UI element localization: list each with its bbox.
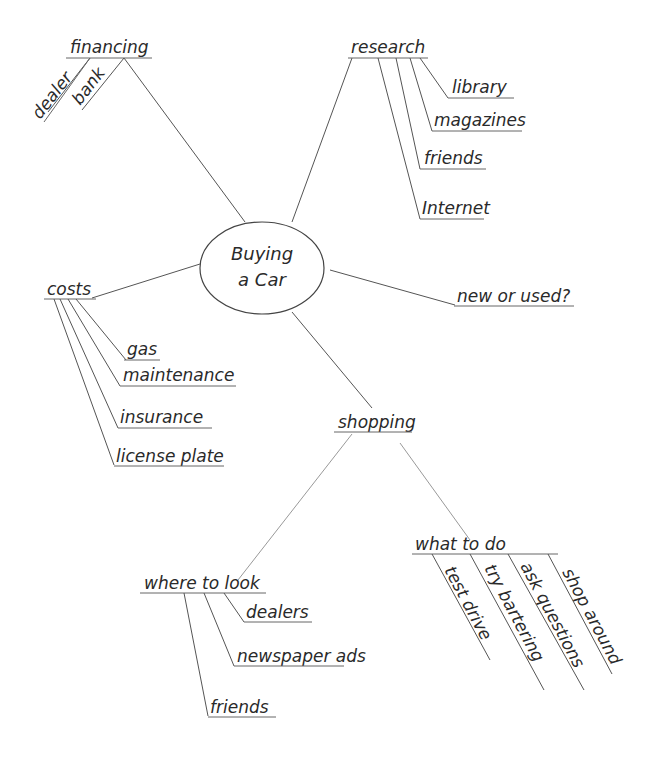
label-library: library (452, 77, 508, 97)
label-financing: financing (70, 37, 149, 57)
label-license-plate: license plate (116, 446, 224, 466)
connector-license-plate (54, 299, 114, 465)
connector-financing (124, 58, 245, 222)
connector-newspaper-ads (204, 593, 234, 666)
label-new-or-used: new or used? (457, 286, 570, 306)
connector-research-friends (396, 58, 420, 169)
center-label-line1: Buying (231, 243, 293, 264)
label-costs: costs (47, 279, 91, 299)
label-dealers: dealers (246, 602, 309, 622)
connector-magazines (410, 58, 432, 131)
label-insurance: insurance (120, 407, 203, 427)
branch-financing: financing dealer bank (27, 37, 245, 222)
label-research-friends: friends (424, 148, 483, 168)
label-shopping: shopping (338, 412, 416, 432)
connector-where-to-look (238, 434, 352, 580)
connector-costs (92, 264, 200, 298)
label-magazines: magazines (434, 110, 526, 130)
connector-dealers (224, 593, 244, 622)
label-newspaper-ads: newspaper ads (237, 646, 366, 666)
branch-new-or-used: new or used? (330, 270, 574, 306)
connector-research (292, 58, 352, 222)
label-bank: bank (67, 62, 109, 108)
connector-shopping-friends (184, 593, 208, 716)
connector-new-or-used (330, 270, 455, 305)
label-gas: gas (127, 339, 157, 359)
label-where-to-look: where to look (144, 573, 261, 593)
connector-shopping (292, 312, 372, 408)
connector-what-to-do (400, 443, 470, 540)
connector-library (420, 58, 448, 98)
label-shopping-friends: friends (210, 697, 269, 717)
center-ellipse (200, 222, 324, 314)
center-label-line2: a Car (238, 269, 287, 290)
center-node: Buying a Car (200, 222, 324, 314)
label-maintenance: maintenance (123, 365, 234, 385)
branch-research: research library magazines friends Inter… (292, 37, 526, 222)
mind-map-canvas: Buying a Car financing dealer bank resea… (0, 0, 652, 757)
label-internet: Internet (422, 198, 491, 218)
branch-costs: costs gas maintenance insurance license … (44, 264, 236, 466)
label-what-to-do: what to do (415, 534, 506, 554)
label-research: research (351, 37, 425, 57)
connector-insurance (60, 299, 118, 428)
